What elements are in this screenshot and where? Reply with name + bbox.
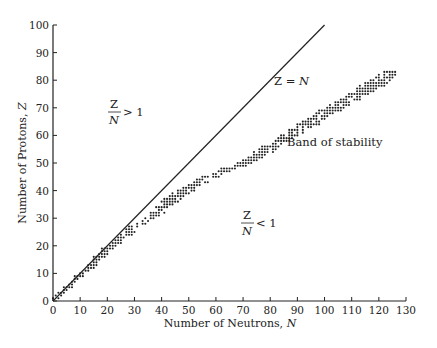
ratio-less-label: Z N < 1	[241, 208, 277, 238]
svg-text:50: 50	[182, 304, 195, 316]
svg-text:80: 80	[36, 74, 49, 86]
svg-text:< 1: < 1	[256, 216, 277, 230]
svg-text:10: 10	[36, 267, 49, 279]
svg-text:70: 70	[236, 304, 249, 316]
svg-text:20: 20	[101, 304, 114, 316]
svg-text:0: 0	[50, 304, 57, 316]
svg-text:100: 100	[29, 19, 49, 31]
svg-text:100: 100	[315, 304, 335, 316]
svg-text:60: 60	[209, 304, 222, 316]
svg-text:20: 20	[36, 240, 49, 252]
svg-text:N: N	[108, 113, 120, 127]
svg-text:> 1: > 1	[123, 105, 144, 119]
svg-text:30: 30	[36, 212, 49, 224]
svg-text:Z: Z	[110, 97, 118, 111]
svg-text:30: 30	[128, 304, 141, 316]
band-of-stability-points	[52, 71, 396, 299]
z-equals-n-label: Z = N	[274, 74, 310, 88]
nuclear-stability-chart: 0102030405060708090100110120130010203040…	[0, 0, 437, 348]
svg-text:10: 10	[73, 304, 86, 316]
ratio-greater-label: Z N > 1	[108, 97, 144, 127]
z-equals-n-line	[53, 25, 325, 301]
svg-text:70: 70	[36, 102, 49, 114]
svg-text:50: 50	[36, 157, 49, 169]
svg-text:N: N	[241, 224, 253, 238]
svg-text:60: 60	[36, 129, 49, 141]
svg-text:80: 80	[264, 304, 277, 316]
svg-text:0: 0	[42, 295, 49, 307]
svg-text:90: 90	[36, 47, 49, 59]
axes: 0102030405060708090100110120130010203040…	[29, 19, 416, 316]
svg-text:90: 90	[291, 304, 304, 316]
svg-text:120: 120	[369, 304, 389, 316]
x-axis-label: Number of Neutrons, N	[164, 317, 297, 330]
svg-text:40: 40	[36, 185, 49, 197]
svg-text:40: 40	[155, 304, 168, 316]
svg-text:110: 110	[342, 304, 362, 316]
y-axis-label: Number of Protons, Z	[16, 102, 29, 224]
svg-text:Z: Z	[243, 208, 251, 222]
band-of-stability-label: Band of stability	[287, 135, 383, 149]
svg-text:130: 130	[396, 304, 416, 316]
